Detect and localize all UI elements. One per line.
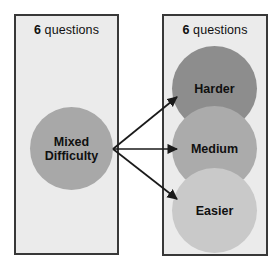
target-panel-caption: 6 questions <box>164 23 266 37</box>
source-question-count: 6 <box>34 23 41 37</box>
source-panel-caption: 6 questions <box>16 23 117 37</box>
bubble-mixed-difficulty: Mixed Difficulty <box>30 107 113 190</box>
bubble-easier: Easier <box>172 168 257 253</box>
source-question-count-label: questions <box>45 23 99 37</box>
bubble-mixed-difficulty-label-line1: Mixed <box>54 135 89 149</box>
target-question-count: 6 <box>182 23 189 37</box>
bubble-harder-label: Harder <box>194 82 234 96</box>
difficulty-split-diagram: 6 questions 6 questions Mixed Difficulty… <box>0 0 274 277</box>
bubble-mixed-difficulty-label: Mixed Difficulty <box>45 135 98 163</box>
bubble-easier-label: Easier <box>196 204 234 218</box>
bubble-medium-label: Medium <box>191 142 238 156</box>
bubble-mixed-difficulty-label-line2: Difficulty <box>45 149 98 163</box>
target-question-count-label: questions <box>193 23 247 37</box>
